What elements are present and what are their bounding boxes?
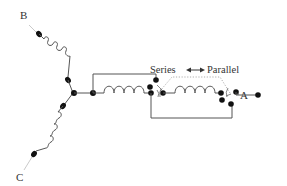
phase-a-coil-2 xyxy=(163,86,221,93)
terminal-a-node xyxy=(255,92,261,98)
double-arrow-icon xyxy=(186,68,205,73)
series-parallel-switch-1[interactable] xyxy=(147,77,166,97)
phase-c-coil xyxy=(36,106,63,151)
phase-b-winding xyxy=(29,25,73,93)
switch-mode-label: Series Parallel xyxy=(150,64,239,75)
parallel-label: Parallel xyxy=(207,64,239,75)
series-label: Series xyxy=(150,64,176,75)
series-parallel-switch-2[interactable] xyxy=(218,88,239,107)
phase-c-winding xyxy=(24,93,73,170)
parallel-bypass-bottom xyxy=(151,93,232,118)
phase-b-coil xyxy=(39,34,70,77)
terminal-label-c: C xyxy=(16,171,23,183)
winding-diagram: B C A Series Parallel xyxy=(0,0,287,186)
phase-a-coil-1 xyxy=(93,86,151,93)
terminal-label-b: B xyxy=(20,9,27,21)
